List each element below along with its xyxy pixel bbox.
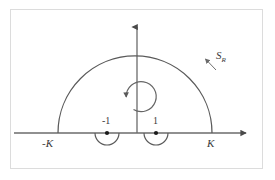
axis-label-positive-k: K [207,138,214,149]
pole-marker-minus-one [105,131,109,135]
contour-label-s-r: SR [216,50,226,64]
contour-drawing [0,0,275,180]
axis-label-positive-one: 1 [153,116,158,126]
pole-marker-plus-one [154,131,158,135]
axis-label-negative-k: -K [42,138,53,149]
contour-diagram-figure: -K K -1 1 SR [0,0,275,180]
counterclockwise-circle-arrow [126,82,156,112]
contour-label-leader-line [206,59,217,70]
large-semicircle-arc [58,56,212,133]
contour-label-subscript: R [222,56,226,64]
axis-label-negative-one: -1 [102,116,110,126]
